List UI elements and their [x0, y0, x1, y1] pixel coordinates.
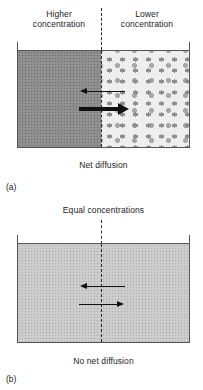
panel-a-tag: (a) [6, 182, 16, 192]
diffusion-figure: Higher concentration Lower concentration… [0, 0, 203, 390]
equal-concentrations-label: Equal concentrations [17, 205, 190, 215]
high-concentration-region [18, 51, 101, 147]
panel-b-divider-inner [101, 244, 102, 342]
panel-b-caption: No net diffusion [17, 356, 190, 366]
panel-a-divider-upper [101, 8, 102, 50]
lower-concentration-label: Lower concentration [104, 9, 190, 29]
panel-a-caption: Net diffusion [17, 160, 190, 170]
panel-a-container [17, 50, 190, 148]
panel-a-divider-inner [101, 51, 102, 147]
higher-concentration-label: Higher concentration [17, 9, 101, 29]
panel-b-divider-upper [101, 220, 102, 244]
low-concentration-region [101, 51, 189, 147]
panel-b-container [17, 243, 190, 343]
panel-b-tag: (b) [6, 374, 16, 384]
